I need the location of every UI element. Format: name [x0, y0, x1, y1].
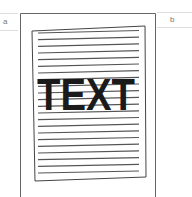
diagram-canvas: TEXT [0, 0, 192, 197]
label-b: b [170, 15, 174, 24]
document-title-text: TEXT [37, 70, 135, 119]
label-a: a [3, 17, 7, 26]
